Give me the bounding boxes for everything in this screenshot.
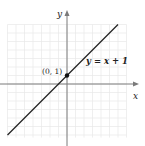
x-axis-label: x bbox=[133, 91, 138, 101]
y-axis-arrow-icon bbox=[65, 10, 70, 16]
x-axis-arrow-icon bbox=[133, 82, 139, 87]
function-line bbox=[8, 25, 119, 136]
coordinate-plot: y x y = x + 1 (0, 1) bbox=[0, 0, 145, 146]
y-axis-label: y bbox=[56, 9, 63, 19]
equation-label: y = x + 1 bbox=[85, 56, 128, 66]
point-label: (0, 1) bbox=[42, 67, 62, 76]
point-marker bbox=[65, 73, 69, 77]
